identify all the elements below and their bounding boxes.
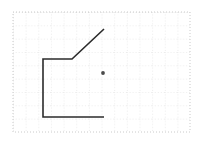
geometry-figure-svg [0,0,200,143]
interior-point-marker [101,71,105,75]
figure-canvas [0,0,200,143]
